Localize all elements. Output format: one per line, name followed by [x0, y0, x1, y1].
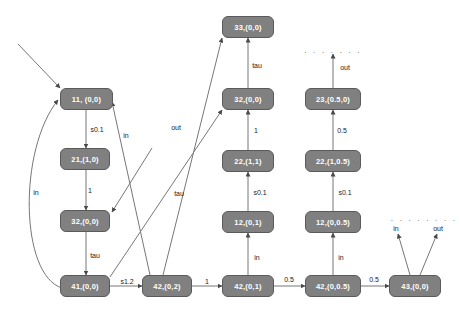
edge-label-1-middle: 1: [254, 127, 258, 134]
edge-label-out-right: out: [340, 64, 350, 71]
node-42-0-0-5[interactable]: 42,(0,0.5): [305, 275, 361, 297]
edge-label-in-loop: in: [33, 189, 38, 196]
dotted-marker-right-column: . . . . . . .: [304, 46, 362, 55]
edge-label-in-diagonal: in: [123, 132, 128, 139]
edge-label-tau-middle: tau: [252, 62, 262, 69]
edge-start-to-11: [18, 44, 60, 88]
node-12-right[interactable]: 12,(0,0.5): [305, 211, 361, 233]
node-32-middle[interactable]: 32,(0,0): [222, 88, 274, 110]
node-21[interactable]: 21,(1,0): [60, 148, 110, 170]
node-32-left[interactable]: 32,(0,0): [60, 210, 110, 232]
edge-label-s01-left: s0.1: [90, 126, 103, 133]
edge-label-in-right: in: [338, 254, 343, 261]
node-43[interactable]: 43,(0,0): [389, 275, 441, 297]
edge-label-tau-diagonal: tau: [174, 190, 184, 197]
edge-into-32L: [112, 148, 152, 212]
edge-43-out: [420, 234, 437, 275]
edge-label-05-right: 0.5: [337, 127, 347, 134]
edge-in-to-11: [112, 102, 150, 275]
edge-label-05-bottom-1: 0.5: [284, 276, 294, 283]
node-41[interactable]: 41,(0,0): [60, 275, 110, 297]
edge-43-in: [398, 234, 410, 275]
edge-label-out-diagonal: out: [171, 124, 181, 131]
edge-label-05-bottom-2: 0.5: [369, 276, 379, 283]
node-11[interactable]: 11, (0,0): [60, 88, 113, 110]
node-22-right[interactable]: 22,(1,0.5): [305, 150, 361, 172]
edge-label-out-far-right: out: [433, 225, 443, 232]
node-12-middle[interactable]: 12,(0,1): [222, 211, 274, 233]
node-33[interactable]: 33,(0,0): [222, 16, 274, 38]
edge-label-in-middle: in: [254, 254, 259, 261]
edge-42_02-to-33-out: [163, 38, 222, 275]
edge-label-in-far-right: in: [393, 225, 398, 232]
edge-label-s12: s1.2: [120, 278, 133, 285]
edge-label-tau-left: tau: [90, 252, 100, 259]
edge-label-s01-middle: s0.1: [253, 189, 266, 196]
node-42-0-2[interactable]: 42,(0,2): [142, 275, 192, 297]
node-23-right[interactable]: 23,(0.5,0): [305, 88, 361, 110]
edge-label-s01-right: s0.1: [338, 189, 351, 196]
edge-label-1-bottom: 1: [205, 278, 209, 285]
edge-label-1-left: 1: [88, 187, 92, 194]
dotted-marker-far-right: . . . . . . . .: [391, 214, 457, 223]
node-22-middle[interactable]: 22,(1,1): [222, 150, 274, 172]
node-42-0-1[interactable]: 42,(0,1): [222, 275, 274, 297]
state-diagram-canvas: 11, (0,0) 21,(1,0) 32,(0,0) 41,(0,0) 42,…: [0, 0, 462, 317]
